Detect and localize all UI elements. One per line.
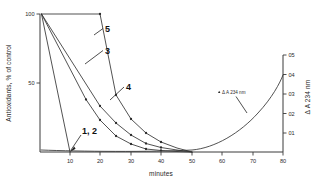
series-4-point xyxy=(130,134,132,136)
x-tick-label-30: 30 xyxy=(128,158,134,164)
series-3-point xyxy=(130,143,132,145)
series-4-point xyxy=(145,142,147,144)
x-tick-label-60: 60 xyxy=(219,158,225,164)
left-tick-label-100: 100 xyxy=(25,11,34,17)
series-3-point xyxy=(115,135,117,137)
series-4-point xyxy=(115,122,117,124)
x-tick-label-70: 70 xyxy=(250,158,256,164)
x-tick-label-80: 80 xyxy=(280,158,286,164)
label-4-text: 4 xyxy=(126,82,131,92)
right-tick-label-01: 01 xyxy=(289,130,295,136)
left-tick-label-50: 50 xyxy=(28,80,34,86)
x-tick-label-10: 10 xyxy=(67,158,73,164)
label-3-text: 3 xyxy=(105,46,110,56)
x-tick-label-40: 40 xyxy=(158,158,164,164)
series-3-point xyxy=(99,119,101,121)
series-4-point xyxy=(160,146,162,148)
antioxidant-decay-chart: 100 50 Antioxidants, % of control 10 20 … xyxy=(0,0,321,186)
right-tick-label-03: 03 xyxy=(289,91,295,97)
y-axis-title: Antioxidants, % of control xyxy=(5,44,12,122)
right-tick-label-04: 04 xyxy=(289,72,295,78)
series-5-point xyxy=(130,118,132,120)
series-3-point xyxy=(145,148,147,150)
label-1-2-text: 1, 2 xyxy=(82,126,97,136)
series-5-point xyxy=(160,141,162,143)
x-tick-label-50: 50 xyxy=(189,158,195,164)
series-5-point xyxy=(145,132,147,134)
x-tick-label-20: 20 xyxy=(97,158,103,164)
x-axis-title: minutes xyxy=(149,170,173,177)
y2-axis-title: Δ A 234 nm xyxy=(304,80,311,115)
right-tick-label-05: 05 xyxy=(289,52,295,58)
label-5-text: 5 xyxy=(105,24,110,34)
right-tick-label-02: 02 xyxy=(289,111,295,117)
series-4-point xyxy=(99,105,101,107)
series-5-point xyxy=(99,13,101,15)
delta-a234-annotation-label: Δ A 234 nm xyxy=(222,90,246,95)
series-3-point xyxy=(85,98,87,100)
